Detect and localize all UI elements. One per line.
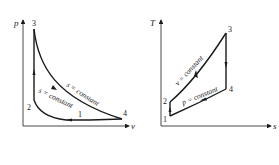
- pv-diagram: p v 3 2 1 4 s = constant s = constant: [13, 18, 135, 131]
- pv-y-axis-label: p: [13, 18, 19, 28]
- pv-point-4: 4: [123, 109, 127, 118]
- pv-point-2: 2: [27, 103, 31, 112]
- ts-arrow-1-2-icon: [169, 107, 172, 112]
- ts-point-4: 4: [229, 85, 233, 94]
- ts-point-2: 2: [163, 97, 167, 106]
- ts-diagram: T s 3 4 2 1 v = constant p = constant: [150, 18, 277, 131]
- pv-arrow-2-3-icon: [33, 69, 36, 75]
- pv-point-3: 3: [32, 19, 36, 28]
- ts-point-1: 1: [163, 115, 167, 124]
- pv-x-axis-label: v: [131, 121, 135, 131]
- ts-arrow-3-4-icon: [225, 62, 228, 68]
- diagram-canvas: p v 3 2 1 4 s = constant s = constant T …: [0, 0, 279, 165]
- pv-process-4-1: [66, 119, 122, 120]
- ts-x-axis-label: s: [273, 121, 277, 131]
- pv-arrow-4-1-icon: [66, 119, 72, 122]
- ts-point-3: 3: [228, 25, 232, 34]
- ts-y-axis-label: T: [150, 18, 156, 28]
- pv-process-3-4: [34, 29, 122, 119]
- pv-arrow-3-4-icon: [51, 85, 57, 90]
- pv-point-1: 1: [78, 110, 82, 119]
